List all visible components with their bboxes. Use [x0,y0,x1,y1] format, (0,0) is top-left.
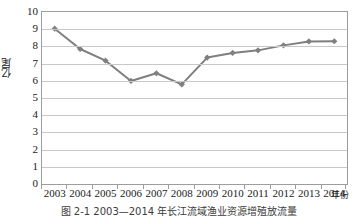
y-tick-label: 2 [8,144,38,155]
gridline [42,115,347,116]
y-tick-label: 7 [8,58,38,69]
gridline [42,150,347,151]
gridline [42,64,347,65]
data-point-marker [255,47,261,53]
series-line [55,29,335,85]
data-point-marker [331,38,337,44]
y-tick-label: 1 [8,161,38,172]
y-tick-label: 5 [8,92,38,103]
gridline [42,81,347,82]
gridline [42,98,347,99]
data-point-marker [306,38,312,44]
y-tick-label: 8 [8,40,38,51]
gridline [42,29,347,30]
y-tick-label: 9 [8,23,38,34]
y-tick-label: 4 [8,109,38,120]
chart-figure: 亿尾 012345678910 200320042005200620072008… [0,0,358,218]
y-tick-label: 0 [8,178,38,189]
y-axis-tick-labels: 012345678910 [4,11,38,185]
gridline [42,132,347,133]
gridline [42,167,347,168]
y-tick-label: 6 [8,75,38,86]
gridline [42,46,347,47]
y-tick-label: 3 [8,126,38,137]
x-axis-tick-labels: 2003200420052006200720082009201020112012… [41,187,348,203]
y-tick-label: 10 [8,6,38,17]
data-point-marker [153,70,159,76]
plot-area [41,11,348,185]
x-axis-title: 年份 [331,190,349,200]
figure-caption: 图 2-1 2003—2014 年长江流域渔业资源增殖放流量 [0,206,358,218]
data-point-marker [230,50,236,56]
